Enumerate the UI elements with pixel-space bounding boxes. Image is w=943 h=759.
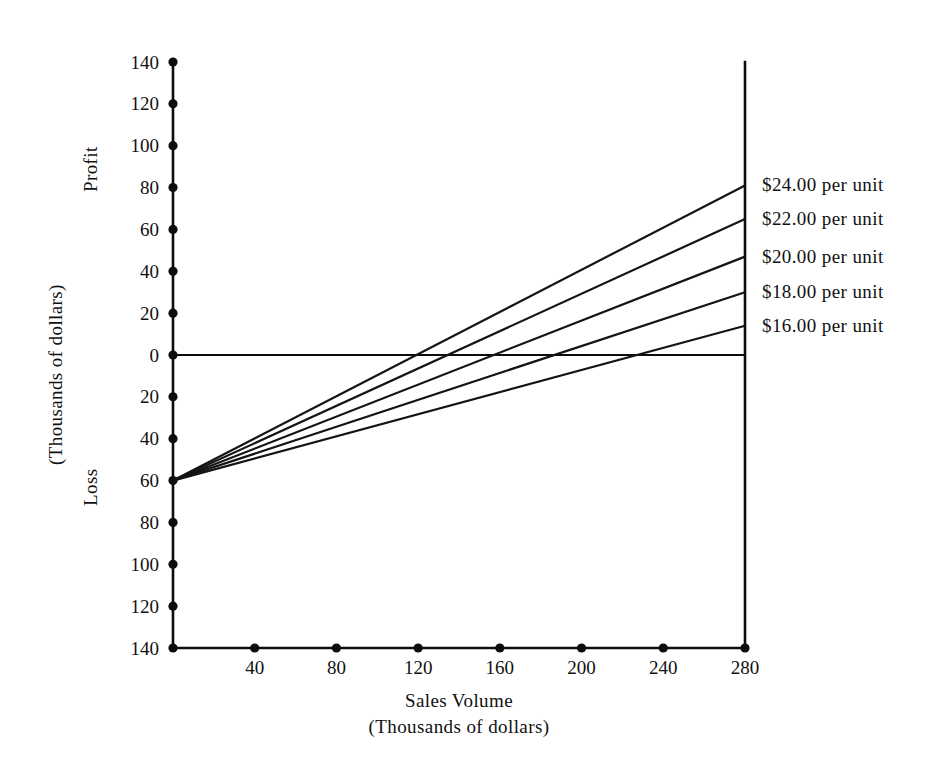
x-tick-label: 40 [245, 657, 264, 678]
y-tick-label: 100 [131, 554, 160, 575]
series-line-2 [173, 257, 745, 481]
y-tick-label: 120 [131, 93, 160, 114]
series-line-0 [173, 185, 745, 480]
y-tick-label: 100 [131, 135, 160, 156]
x-tick-label: 200 [567, 657, 596, 678]
series-label-22: $22.00 per unit [762, 208, 884, 230]
y-tick-label: 20 [140, 386, 159, 407]
y-axis-loss-label: Loss [80, 468, 102, 506]
series-label-18: $18.00 per unit [762, 281, 884, 303]
y-tick-label: 80 [140, 512, 159, 533]
x-tick-label: 120 [404, 657, 433, 678]
series-line-3 [173, 292, 745, 480]
x-tick-label: 160 [486, 657, 515, 678]
x-tick-label: 240 [649, 657, 678, 678]
y-tick-label: 140 [131, 52, 160, 73]
x-axis-subtitle: (Thousands of dollars) [329, 716, 589, 738]
series-label-24: $24.00 per unit [762, 174, 884, 196]
y-tick-label: 40 [140, 261, 159, 282]
y-axis-title: (Thousands of dollars) [45, 284, 67, 465]
y-tick-label: 120 [131, 596, 160, 617]
y-tick-label: 0 [150, 345, 160, 366]
y-tick-label: 140 [131, 638, 160, 659]
y-axis-label-group: 14012010080604020020406080100120140 [131, 52, 160, 659]
series-label-20: $20.00 per unit [762, 246, 884, 268]
x-axis-label-group: 4080120160200240280 [245, 657, 759, 678]
x-tick-label: 80 [327, 657, 346, 678]
chart-canvas: 14012010080604020020406080100120140 4080… [0, 0, 943, 759]
y-tick-label: 60 [140, 470, 159, 491]
profit-volume-chart: 14012010080604020020406080100120140 4080… [0, 0, 943, 759]
x-axis-title: Sales Volume [329, 690, 589, 712]
y-tick-label: 80 [140, 177, 159, 198]
y-tick-label: 40 [140, 428, 159, 449]
series-line-group [173, 185, 745, 480]
y-tick-label: 20 [140, 303, 159, 324]
y-axis-profit-label: Profit [80, 146, 102, 192]
series-label-16: $16.00 per unit [762, 315, 884, 337]
y-tick-label: 60 [140, 219, 159, 240]
x-tick-label: 280 [731, 657, 760, 678]
